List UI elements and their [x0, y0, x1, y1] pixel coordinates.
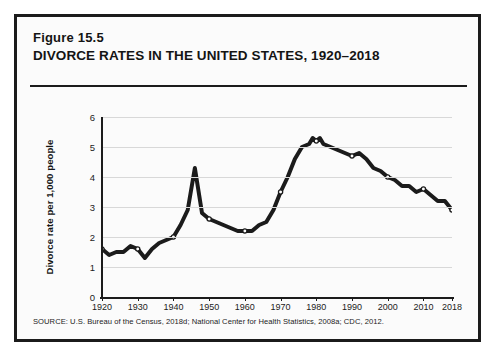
y-axis-tick-label: 2 — [90, 232, 95, 243]
x-axis-tick-label: 1940 — [163, 302, 183, 312]
series-marker — [350, 154, 354, 158]
chart-area: Divorce rate per 1,000 people 0123456 19… — [30, 95, 471, 313]
series-marker — [278, 190, 282, 194]
y-axis-title: Divorce rate per 1,000 people — [44, 117, 56, 297]
series-marker — [136, 247, 140, 251]
x-axis-tick-mark — [209, 297, 210, 301]
title-divider — [30, 85, 467, 87]
figure-title: DIVORCE RATES IN THE UNITED STATES, 1920… — [33, 47, 463, 65]
x-axis-tick-mark — [452, 297, 453, 301]
x-axis-tick-label: 1970 — [271, 302, 291, 312]
x-axis-tick-label: 1990 — [342, 302, 362, 312]
x-axis-tick-mark — [423, 297, 424, 301]
y-axis-tick-label: 1 — [90, 262, 95, 273]
gridline — [102, 267, 452, 268]
x-axis-tick-label: 2010 — [413, 302, 433, 312]
y-axis-tick-label: 0 — [90, 292, 95, 303]
x-axis-line — [100, 297, 454, 299]
x-axis-tick-mark — [352, 297, 353, 301]
x-axis-tick-label: 1960 — [235, 302, 255, 312]
x-axis-tick-mark — [388, 297, 389, 301]
x-axis-tick-label: 1980 — [306, 302, 326, 312]
x-axis-tick-mark — [245, 297, 246, 301]
series-line — [102, 138, 452, 258]
series-marker — [450, 208, 452, 212]
series-marker — [314, 139, 318, 143]
figure-panel: Figure 15.5 DIVORCE RATES IN THE UNITED … — [14, 14, 481, 342]
x-axis-tick-mark — [102, 297, 103, 301]
gridline — [102, 177, 452, 178]
x-axis-tick-mark — [281, 297, 282, 301]
y-axis-line — [101, 117, 103, 297]
plot-region: 0123456 19201930194019501960197019801990… — [102, 117, 452, 297]
x-axis-tick-label: 2018 — [442, 302, 462, 312]
source-note: SOURCE: U.S. Bureau of the Census, 2018d… — [33, 317, 465, 327]
gridline — [102, 147, 452, 148]
y-axis-tick-label: 3 — [90, 202, 95, 213]
y-axis-tick-label: 5 — [90, 142, 95, 153]
x-axis-tick-mark — [316, 297, 317, 301]
series-marker — [243, 229, 247, 233]
y-axis-tick-label: 4 — [90, 172, 95, 183]
series-marker — [421, 187, 425, 191]
series-marker — [207, 217, 211, 221]
x-axis-tick-mark — [173, 297, 174, 301]
gridline — [102, 207, 452, 208]
x-axis-tick-label: 1950 — [199, 302, 219, 312]
x-axis-tick-label: 1930 — [128, 302, 148, 312]
gridline — [102, 237, 452, 238]
y-axis-tick-label: 6 — [90, 112, 95, 123]
gridline — [102, 117, 452, 118]
x-axis-tick-label: 2000 — [378, 302, 398, 312]
figure-header: Figure 15.5 DIVORCE RATES IN THE UNITED … — [33, 29, 463, 65]
x-axis-tick-label: 1920 — [92, 302, 112, 312]
figure-number: Figure 15.5 — [33, 29, 463, 46]
x-axis-tick-mark — [138, 297, 139, 301]
